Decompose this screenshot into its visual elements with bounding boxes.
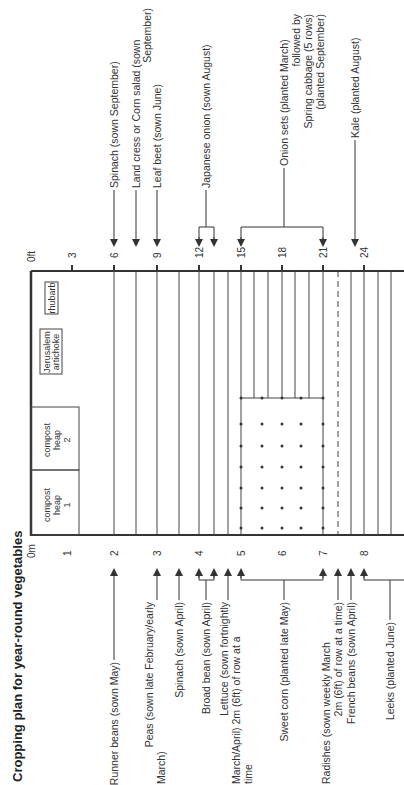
svg-text:9: 9 [152,252,163,258]
svg-text:4: 4 [194,550,205,556]
svg-text:Lettuce (sown fortnightly: Lettuce (sown fortnightly [218,601,230,716]
svg-text:Peas (sown late February/early: Peas (sown late February/early [143,601,155,747]
svg-text:time: time [242,764,254,784]
svg-text:Sweet corn (planted late May): Sweet corn (planted late May) [278,602,290,741]
svg-text:7: 7 [318,550,329,556]
diagram-title: Cropping plan for year-round vegetables [10,531,25,782]
svg-text:8: 8 [359,550,370,556]
svg-text:French beans (sown April): French beans (sown April) [345,602,357,724]
svg-text:3: 3 [67,252,78,258]
svg-text:Japanese onion (sown August): Japanese onion (sown August) [200,44,212,188]
svg-text:Runner beans (sown May): Runner beans (sown May) [108,662,120,785]
svg-text:March/April) 2m (6ft) of row a: March/April) 2m (6ft) of row at a [230,636,242,784]
svg-text:September): September) [141,8,153,63]
compost-heap-1-label: compost heap 1 [42,487,72,522]
svg-text:6: 6 [277,550,288,556]
svg-text:artichoke: artichoke [51,334,61,371]
svg-text:2: 2 [62,437,72,442]
compost-heap-2-label: compost heap 2 [42,422,72,457]
svg-text:Broad bean (sown April): Broad bean (sown April) [200,602,212,714]
svg-text:6: 6 [109,252,120,258]
svg-text:compost: compost [42,487,52,522]
metres-axis: 0m 1 2 3 4 5 6 7 8 [26,544,370,558]
bottom-labels: Runner beans (sown May) Peas (sown late … [108,601,396,785]
svg-text:heap: heap [52,430,62,450]
svg-text:Radishes (sown weekly March: Radishes (sown weekly March [320,642,332,784]
cropping-plan-diagram: Cropping plan for year-round vegetables [0,0,404,785]
svg-text:Spring cabbage (5 rows): Spring cabbage (5 rows) [302,14,314,128]
svg-text:2: 2 [109,550,120,556]
svg-text:0ft: 0ft [26,251,37,262]
svg-text:Spinach (sown April): Spinach (sown April) [173,602,185,698]
rhubarb-label: rhubarb [47,282,57,313]
sweet-corn-block [240,397,325,530]
svg-text:followed by: followed by [290,13,302,66]
svg-text:24: 24 [359,246,370,258]
svg-text:18: 18 [277,246,288,258]
plot-frame [31,271,404,536]
svg-text:1: 1 [62,502,72,507]
svg-text:2m (6ft) of row at a time): 2m (6ft) of row at a time) [332,602,344,716]
svg-text:21: 21 [318,246,329,258]
bottom-arrows [114,572,404,660]
svg-text:0m: 0m [26,544,37,558]
svg-text:Spinach (sown September): Spinach (sown September) [108,61,120,188]
row-lines [114,271,391,535]
svg-text:Leeks (planted June): Leeks (planted June) [384,622,396,720]
svg-text:Kale (planted August): Kale (planted August) [349,38,361,138]
top-labels: Spinach (sown September) Land cress or C… [108,8,361,188]
feet-axis: 0ft 3 6 9 12 15 18 21 24 [26,246,370,271]
svg-text:Onion sets (planted March): Onion sets (planted March) [278,39,290,166]
svg-text:compost: compost [42,422,52,457]
svg-text:15: 15 [236,246,247,258]
svg-text:(planted September): (planted September) [314,14,326,110]
svg-text:12: 12 [194,246,205,258]
svg-text:3: 3 [152,550,163,556]
svg-text:March): March) [155,751,167,784]
svg-text:1: 1 [62,550,73,556]
jerusalem-artichoke-label: Jerusalem artichoke [42,331,61,373]
svg-text:5: 5 [236,550,247,556]
svg-text:heap: heap [52,495,62,515]
svg-text:Leaf beet (sown June): Leaf beet (sown June) [151,84,163,188]
